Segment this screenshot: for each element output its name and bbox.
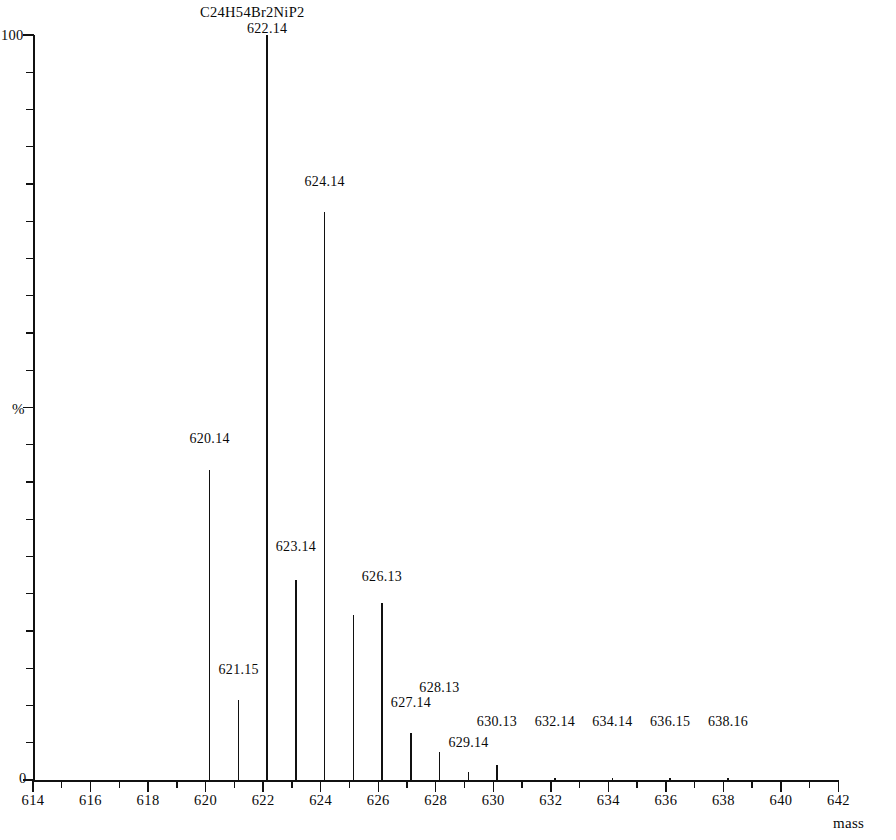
- spectrum-peak: [295, 580, 297, 780]
- x-axis-tick: [61, 781, 62, 788]
- x-axis-tick: [234, 781, 235, 788]
- x-axis-tick-label: 642: [827, 792, 850, 809]
- x-axis-tick: [694, 781, 695, 788]
- x-axis-tick: [493, 781, 494, 792]
- spectrum-peak-label: 636.15: [650, 714, 690, 730]
- y-axis-tick: [26, 705, 33, 706]
- spectrum-peak-label: 632.14: [535, 714, 575, 730]
- spectrum-peak: [439, 752, 441, 780]
- x-axis-tick-label: 636: [654, 792, 677, 809]
- y-axis-tick: [26, 370, 33, 371]
- x-axis-title: mass: [833, 815, 864, 832]
- spectrum-peak: [238, 700, 240, 780]
- x-axis-tick: [119, 781, 120, 788]
- spectrum-peak: [410, 733, 412, 780]
- spectrum-peak: [554, 778, 556, 780]
- x-axis-tick-label: 626: [367, 792, 390, 809]
- y-axis-tick: [26, 630, 33, 631]
- spectrum-peak-label: 629.14: [448, 735, 488, 751]
- spectrum-peak-label: 634.14: [592, 714, 632, 730]
- y-axis-tick: [23, 34, 34, 35]
- y-axis-tick: [26, 742, 33, 743]
- y-axis-tick: [26, 668, 33, 669]
- x-axis-tick-label: 640: [769, 792, 792, 809]
- x-axis-tick: [608, 781, 609, 792]
- x-axis-tick: [838, 781, 839, 792]
- y-axis-tick: [26, 221, 33, 222]
- y-axis-tick: [26, 593, 33, 594]
- x-axis-tick: [636, 781, 637, 788]
- y-axis-tick: [26, 332, 33, 333]
- spectrum-peak-label: 626.13: [362, 569, 402, 585]
- x-axis-tick-label: 620: [194, 792, 217, 809]
- x-axis-tick: [521, 781, 522, 788]
- y-axis-tick: [26, 109, 33, 110]
- x-axis-tick: [320, 781, 321, 792]
- y-axis-tick: [26, 295, 33, 296]
- x-axis-tick: [262, 781, 263, 792]
- x-axis-tick: [147, 781, 148, 792]
- spectrum-peak-label: 620.14: [189, 431, 229, 447]
- y-axis-tick: [26, 72, 33, 73]
- y-axis-tick: [26, 519, 33, 520]
- x-axis-tick-label: 634: [597, 792, 620, 809]
- x-axis-tick: [205, 781, 206, 792]
- spectrum-peak-label: 638.16: [708, 714, 748, 730]
- spectrum-peak: [669, 778, 671, 780]
- x-axis-tick: [751, 781, 752, 788]
- x-axis-tick: [291, 781, 292, 788]
- x-axis-tick: [780, 781, 781, 792]
- y-axis-tick: [26, 556, 33, 557]
- y-axis-tick: [26, 481, 33, 482]
- x-axis-tick-label: 622: [252, 792, 275, 809]
- spectrum-peak-label: 628.13: [419, 680, 459, 696]
- x-axis-tick-label: 614: [22, 792, 45, 809]
- spectrum-peak-label: 622.14: [247, 21, 287, 37]
- spectrum-peak-label: 627.14: [391, 695, 431, 711]
- x-axis-tick-label: 638: [712, 792, 735, 809]
- x-axis-tick: [550, 781, 551, 792]
- x-axis-tick: [464, 781, 465, 788]
- spectrum-peak-label: 623.14: [276, 539, 316, 555]
- y-axis-label-100: 100: [1, 27, 24, 44]
- x-axis-tick-label: 630: [482, 792, 505, 809]
- y-axis-tick: [26, 258, 33, 259]
- x-axis-tick-label: 618: [137, 792, 160, 809]
- y-axis-tick: [23, 407, 34, 408]
- spectrum-peak: [381, 603, 383, 780]
- plot-area: C24H54Br2NiP2 100 % 0 mass 6146166186206…: [0, 0, 896, 840]
- y-axis-tick: [26, 146, 33, 147]
- x-axis-tick: [435, 781, 436, 792]
- y-axis-tick: [26, 183, 33, 184]
- x-axis-tick-label: 628: [424, 792, 447, 809]
- molecular-formula-title: C24H54Br2NiP2: [200, 4, 305, 21]
- x-axis-tick: [32, 781, 33, 792]
- x-axis-tick: [809, 781, 810, 788]
- spectrum-peak: [496, 765, 498, 780]
- x-axis-tick-label: 632: [539, 792, 562, 809]
- x-axis-tick: [579, 781, 580, 788]
- x-axis-tick: [665, 781, 666, 792]
- spectrum-peak: [324, 212, 326, 780]
- spectrum-peak: [468, 772, 470, 780]
- y-axis-label-percent: %: [12, 401, 25, 418]
- y-axis-tick: [26, 444, 33, 445]
- spectrum-peak-label: 621.15: [219, 662, 259, 678]
- spectrum-peak: [353, 615, 355, 780]
- spectrum-peak: [266, 35, 268, 780]
- mass-spectrum-figure: C24H54Br2NiP2 100 % 0 mass 6146166186206…: [0, 0, 896, 840]
- spectrum-peak-label: 624.14: [305, 174, 345, 190]
- x-axis-tick: [176, 781, 177, 788]
- x-axis-tick: [723, 781, 724, 792]
- spectrum-peak: [209, 470, 211, 780]
- x-axis-tick: [349, 781, 350, 788]
- x-axis-tick: [406, 781, 407, 788]
- x-axis-tick: [90, 781, 91, 792]
- x-axis-tick-label: 616: [79, 792, 102, 809]
- x-axis-tick: [378, 781, 379, 792]
- spectrum-peak: [727, 778, 729, 780]
- x-axis-tick-label: 624: [309, 792, 332, 809]
- spectrum-peak-label: 630.13: [477, 714, 517, 730]
- spectrum-peak: [612, 778, 614, 780]
